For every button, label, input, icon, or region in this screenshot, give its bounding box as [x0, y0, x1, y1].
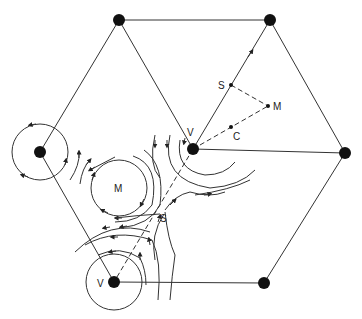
node-bottom-right [258, 277, 270, 289]
node-top-right [264, 14, 276, 26]
label-s-edge: S [218, 80, 225, 91]
node-right [339, 147, 351, 159]
vortex-lattice-diagram: V V M S S M C [0, 0, 362, 319]
edge-arrow-icon [248, 51, 252, 57]
label-v-bottom: V [97, 278, 104, 289]
point-c-edge [229, 125, 233, 129]
point-s-edge [229, 83, 233, 87]
label-c-edge: C [233, 131, 240, 142]
point-m-edge [266, 104, 270, 108]
label-m-circle: M [114, 183, 122, 194]
label-s-flow: S [160, 213, 167, 224]
node-top-left [113, 14, 125, 26]
m-circle-streamlines [90, 150, 161, 228]
label-m-edge: M [273, 101, 281, 112]
node-bottom-v [108, 276, 120, 288]
dashed-construction [114, 85, 268, 282]
node-center-v [187, 143, 199, 155]
label-v-center: V [187, 127, 194, 138]
node-left [34, 146, 46, 158]
vortex-center-streamlines [152, 135, 255, 210]
